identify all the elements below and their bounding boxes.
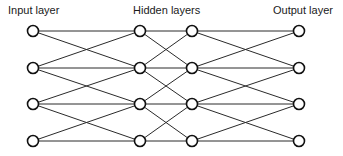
- hidden-1-node-3: [135, 99, 146, 110]
- hidden-2-node-4: [187, 136, 198, 147]
- output-node-3: [294, 99, 305, 110]
- hidden-2-node-1: [187, 26, 198, 37]
- hidden-2-node-2: [187, 63, 198, 74]
- hidden-1-node-1: [135, 26, 146, 37]
- output-node-1: [294, 26, 305, 37]
- input-node-2: [28, 63, 39, 74]
- connections: [33, 31, 299, 141]
- output-node-2: [294, 63, 305, 74]
- neural-network-diagram: Input layer Hidden layers Output layer: [0, 0, 343, 156]
- network-graph: [0, 0, 343, 156]
- hidden-1-node-4: [135, 136, 146, 147]
- input-node-1: [28, 26, 39, 37]
- hidden-2-node-3: [187, 99, 198, 110]
- input-node-4: [28, 136, 39, 147]
- hidden-1-node-2: [135, 63, 146, 74]
- output-node-4: [294, 136, 305, 147]
- input-node-3: [28, 99, 39, 110]
